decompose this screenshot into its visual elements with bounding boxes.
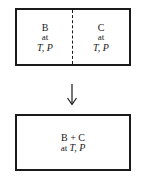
conditions-label: T, P: [69, 142, 85, 153]
compartment-c: C at T, P: [73, 10, 129, 64]
final-state-box: B + C at T, P: [15, 114, 131, 171]
down-arrow-icon: [66, 84, 78, 106]
conditions-label: T, P: [93, 42, 109, 53]
mixture-content: B + C at T, P: [17, 116, 129, 169]
species-b-label: B: [42, 22, 49, 33]
at-label: at: [42, 33, 49, 42]
compartment-b: B at T, P: [17, 10, 73, 64]
at-label: at: [98, 33, 105, 42]
initial-state-box: B at T, P C at T, P: [15, 8, 131, 66]
at-label: at: [61, 143, 68, 153]
conditions-label: T, P: [37, 42, 53, 53]
mixture-conditions-line: at T, P: [61, 143, 86, 153]
species-c-label: C: [98, 22, 105, 33]
